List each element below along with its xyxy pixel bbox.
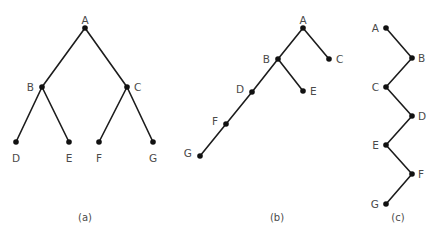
node-b bbox=[409, 55, 415, 61]
tree-a: ABCDEFG(a) bbox=[12, 14, 157, 223]
node-f bbox=[409, 171, 415, 177]
edge-a-c bbox=[303, 28, 329, 59]
node-a bbox=[383, 25, 389, 31]
binary-tree-diagram: ABCDEFG(a) ABCDEFG(b) ABCDEFG(c) bbox=[0, 0, 435, 233]
caption-b: (b) bbox=[270, 212, 284, 223]
node-label-d: D bbox=[12, 152, 20, 164]
node-label-f: F bbox=[212, 115, 218, 127]
node-e bbox=[383, 142, 389, 148]
node-label-a: A bbox=[299, 14, 307, 26]
edge-c-f bbox=[99, 87, 127, 142]
node-g bbox=[150, 139, 156, 145]
node-label-g: G bbox=[149, 152, 157, 164]
edge-f-g bbox=[200, 124, 226, 156]
node-f bbox=[96, 139, 102, 145]
node-b bbox=[39, 84, 45, 90]
node-g bbox=[197, 153, 203, 159]
edge-d-e bbox=[386, 116, 412, 145]
edge-f-g bbox=[386, 174, 412, 204]
node-a bbox=[300, 25, 306, 31]
edge-a-b bbox=[386, 28, 412, 58]
caption-a: (a) bbox=[78, 212, 92, 223]
edge-b-e bbox=[42, 87, 69, 142]
node-label-g: G bbox=[371, 198, 379, 210]
node-f bbox=[223, 121, 229, 127]
node-label-d: D bbox=[418, 110, 426, 122]
node-e bbox=[300, 88, 306, 94]
node-label-b: B bbox=[27, 81, 34, 93]
edge-b-c bbox=[386, 58, 412, 87]
node-c bbox=[383, 84, 389, 90]
node-label-e: E bbox=[66, 152, 73, 164]
node-c bbox=[124, 84, 130, 90]
node-d bbox=[13, 139, 19, 145]
edge-d-f bbox=[226, 92, 252, 124]
node-c bbox=[326, 56, 332, 62]
node-label-e: E bbox=[372, 139, 379, 151]
node-label-b: B bbox=[418, 52, 425, 64]
node-label-b: B bbox=[263, 53, 270, 65]
edge-a-b bbox=[42, 28, 85, 87]
node-label-c: C bbox=[336, 53, 343, 65]
node-a bbox=[82, 25, 88, 31]
node-label-f: F bbox=[418, 168, 424, 180]
tree-c: ABCDEFG(c) bbox=[371, 22, 426, 223]
node-d bbox=[409, 113, 415, 119]
edge-e-f bbox=[386, 145, 412, 174]
node-label-c: C bbox=[134, 81, 141, 93]
edge-b-d bbox=[16, 87, 42, 142]
node-label-c: C bbox=[372, 81, 379, 93]
node-label-a: A bbox=[81, 14, 89, 26]
node-label-d: D bbox=[236, 83, 244, 95]
edge-a-c bbox=[85, 28, 127, 87]
node-label-e: E bbox=[310, 85, 317, 97]
node-b bbox=[275, 56, 281, 62]
tree-b: ABCDEFG(b) bbox=[184, 14, 343, 223]
caption-c: (c) bbox=[391, 212, 404, 223]
node-label-g: G bbox=[184, 147, 192, 159]
node-d bbox=[249, 89, 255, 95]
edge-b-e bbox=[278, 59, 303, 91]
node-e bbox=[66, 139, 72, 145]
node-g bbox=[383, 201, 389, 207]
node-label-a: A bbox=[372, 22, 380, 34]
node-label-f: F bbox=[96, 152, 102, 164]
edge-c-d bbox=[386, 87, 412, 116]
edge-c-g bbox=[127, 87, 153, 142]
edge-a-b bbox=[278, 28, 303, 59]
